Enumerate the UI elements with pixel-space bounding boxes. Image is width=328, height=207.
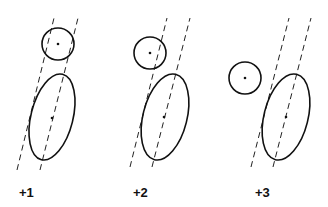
dashed-line — [130, 18, 167, 167]
ellipse-center-dot — [285, 116, 288, 119]
circle-center-dot — [57, 43, 60, 46]
panel-label: +3 — [255, 185, 270, 200]
circle-center-dot — [149, 52, 152, 55]
dashed-line — [17, 18, 54, 170]
diagram-canvas: +1 +2 +3 — [0, 0, 328, 207]
dashed-line — [251, 18, 289, 167]
ellipse-center-dot — [163, 116, 166, 119]
ellipse-center-dot — [51, 117, 54, 120]
dashed-line — [273, 18, 311, 167]
panel-label: +2 — [133, 185, 148, 200]
panel-label: +1 — [19, 185, 34, 200]
dashed-line — [152, 18, 190, 167]
panel-3: +3 — [229, 18, 318, 200]
dashed-line — [40, 18, 78, 170]
panel-1: +1 — [17, 18, 83, 200]
panel-2: +2 — [130, 18, 197, 200]
circle-center-dot — [244, 77, 247, 80]
